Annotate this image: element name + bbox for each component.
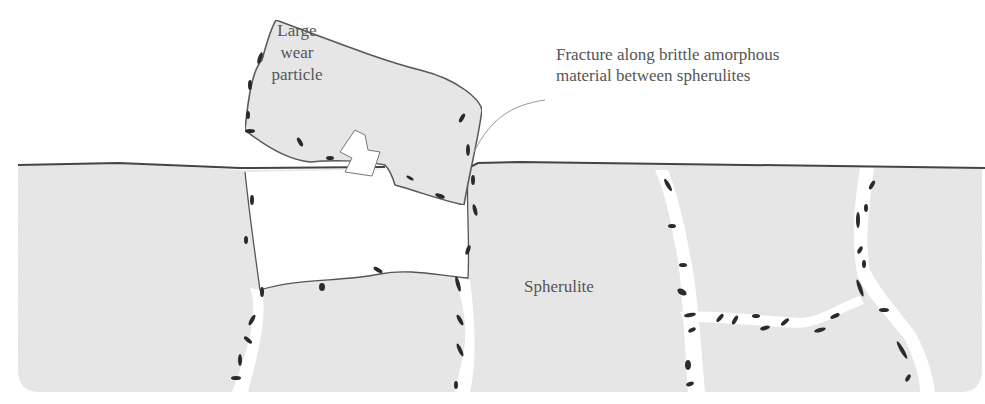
fracture-label: Fracture along brittle amorphous materia… [556, 44, 779, 86]
particle-label-line-3: particle [262, 64, 332, 86]
particle-label: Large wear particle [262, 20, 332, 86]
spherulite-label: Spherulite [524, 277, 594, 297]
polymer-bulk [18, 162, 985, 404]
fracture-label-line-1: Fracture along brittle amorphous [556, 44, 779, 65]
fracture-leader-line [474, 100, 545, 152]
diagram-canvas [0, 0, 985, 404]
particle-label-line-2: wear [262, 42, 332, 64]
particle-label-line-1: Large [262, 20, 332, 42]
wear-diagram: Large wear particle Fracture along britt… [0, 0, 985, 404]
fracture-label-line-2: material between spherulites [556, 65, 779, 86]
